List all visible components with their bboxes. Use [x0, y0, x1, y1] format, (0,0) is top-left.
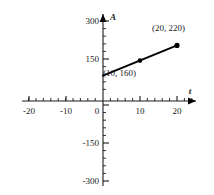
- x-tick-label-neg20: -20: [23, 106, 35, 116]
- y-tick-label-150: 150: [86, 54, 100, 64]
- graph-figure: -20 -10 0 10 20 300 150 -150 -300 t A (1…: [0, 0, 214, 195]
- y-tick-label-neg300: -300: [83, 176, 100, 186]
- x-tick-label-20: 20: [173, 106, 183, 116]
- annotation-10-160: (10, 160): [103, 68, 136, 78]
- x-tick-label-neg10: -10: [60, 106, 72, 116]
- x-tick-label-10: 10: [136, 106, 146, 116]
- annotation-20-220: (20, 220): [152, 23, 185, 33]
- data-point-20-220: [174, 43, 179, 48]
- y-axis-label: A: [109, 12, 116, 22]
- y-tick-label-300: 300: [86, 16, 100, 26]
- coordinate-plane: -20 -10 0 10 20 300 150 -150 -300 t A (1…: [0, 0, 214, 195]
- data-point-10-160: [138, 58, 143, 63]
- y-tick-label-neg150: -150: [83, 138, 100, 148]
- x-tick-label-0: 0: [95, 106, 100, 116]
- x-axis-label: t: [189, 86, 192, 96]
- y-axis: [100, 14, 107, 186]
